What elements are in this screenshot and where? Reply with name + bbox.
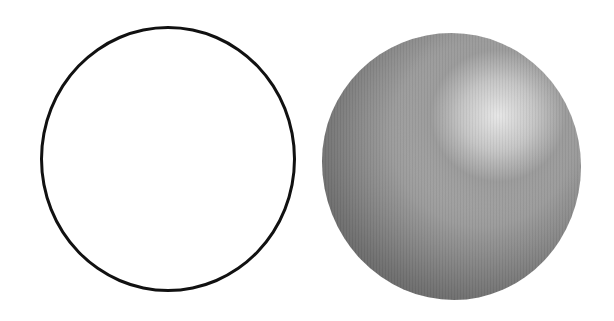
illustration-canvas: [0, 0, 614, 321]
outline-circle: [40, 26, 296, 292]
shaded-sphere: [322, 33, 581, 300]
